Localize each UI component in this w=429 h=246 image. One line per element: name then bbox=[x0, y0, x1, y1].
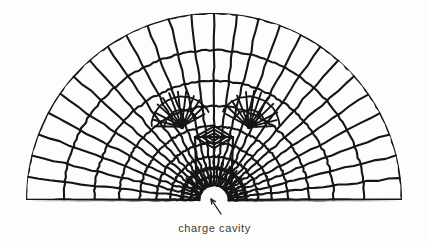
finite-element-mesh bbox=[0, 0, 429, 246]
caption-charge-cavity: charge cavity bbox=[0, 222, 429, 234]
cavity-arrow bbox=[211, 199, 221, 214]
figure-container: charge cavity bbox=[0, 0, 429, 246]
